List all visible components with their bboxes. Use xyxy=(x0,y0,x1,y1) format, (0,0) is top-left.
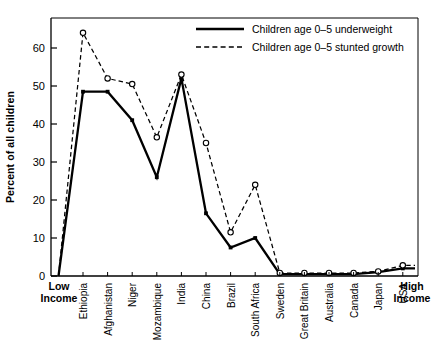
y-tick-label-60: 60 xyxy=(33,42,45,54)
low-income-line2: Income xyxy=(41,292,78,304)
data-point-marker xyxy=(130,81,135,86)
x-category-label-japan: Japan xyxy=(373,283,384,310)
chart-container: 0102030405060 Percent of all children Et… xyxy=(0,0,438,351)
x-category-label-mozambique: Mozambique xyxy=(152,283,163,341)
data-point-marker xyxy=(80,30,85,35)
legend-label-stunted: Children age 0–5 stunted growth xyxy=(252,41,404,53)
x-category-label-china: China xyxy=(201,283,212,310)
data-point-marker xyxy=(179,72,184,77)
data-point-marker xyxy=(229,246,233,250)
low-income-line1: Low xyxy=(49,280,71,292)
y-tick-label-30: 30 xyxy=(33,156,45,168)
data-point-marker xyxy=(105,76,110,81)
y-axis-title: Percent of all children xyxy=(4,91,16,203)
data-point-marker xyxy=(400,263,405,268)
x-category-label-australia: Australia xyxy=(324,283,335,322)
data-point-marker xyxy=(253,182,258,187)
legend-label-underweight: Children age 0–5 underweight xyxy=(252,23,392,35)
data-point-marker xyxy=(130,118,134,122)
y-tick-label-40: 40 xyxy=(33,118,45,130)
x-category-label-south-africa: South Africa xyxy=(250,283,261,337)
data-point-marker xyxy=(203,140,208,145)
y-tick-label-10: 10 xyxy=(33,232,45,244)
data-point-marker xyxy=(228,230,233,235)
x-category-label-sweden: Sweden xyxy=(275,283,286,319)
data-point-marker xyxy=(155,175,159,179)
x-category-label-great-britain: Great Britain xyxy=(299,283,310,339)
line-chart: 0102030405060 Percent of all children Et… xyxy=(0,0,438,351)
high-income-line1: High xyxy=(400,280,423,292)
y-tick-label-0: 0 xyxy=(39,270,45,282)
data-point-marker xyxy=(106,90,110,94)
data-point-marker xyxy=(253,236,257,240)
y-tick-label-50: 50 xyxy=(33,80,45,92)
x-category-label-canada: Canada xyxy=(349,283,360,318)
x-category-label-afghanistan: Afghanistan xyxy=(103,283,114,336)
x-category-label-brazil: Brazil xyxy=(226,283,237,308)
y-tick-label-20: 20 xyxy=(33,194,45,206)
data-point-marker xyxy=(154,135,159,140)
high-income-line2: Income xyxy=(394,292,431,304)
x-category-label-niger: Niger xyxy=(127,282,138,307)
x-category-label-ethiopia: Ethiopia xyxy=(78,283,89,320)
data-point-marker xyxy=(81,90,85,94)
data-point-marker xyxy=(204,211,208,215)
x-category-label-india: India xyxy=(176,283,187,305)
